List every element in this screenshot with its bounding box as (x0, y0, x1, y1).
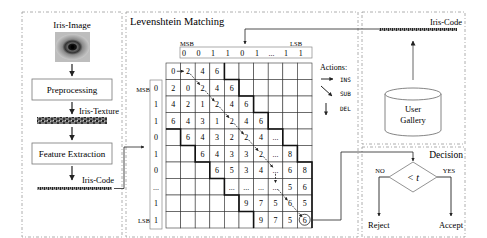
matrix-value: 2 (244, 133, 248, 142)
matrix-value: 4 (215, 84, 219, 93)
side-code-bit: 1 (154, 216, 158, 225)
matrix-value: ... (273, 133, 279, 142)
matrix-cell (181, 195, 196, 212)
ins-label: INS (340, 76, 351, 83)
side-code-bit: 0 (154, 166, 158, 175)
matrix-cell (181, 162, 196, 179)
matrix-cell (210, 195, 225, 212)
decision-panel: Decision < t NO YES Reject Accept (368, 150, 464, 230)
matrix-value: 6 (244, 100, 248, 109)
matrix-cell (195, 162, 210, 179)
matrix-value: 7 (259, 199, 263, 208)
matrix-value: 6 (288, 166, 292, 175)
matrix-cell (195, 212, 210, 229)
side-msb-label: MSB (136, 86, 150, 93)
matrix-value: ... (229, 183, 235, 192)
matrix-value: 6 (215, 166, 219, 175)
matrix-cell (254, 96, 269, 113)
iris-code-label: Iris-Code (82, 175, 114, 185)
accept-label: Accept (439, 220, 464, 230)
top-code-bit: 1 (284, 49, 288, 58)
matrix-value: 4 (259, 133, 263, 142)
top-code-bit: 1 (299, 49, 303, 58)
matrix-value: 5 (288, 216, 292, 225)
matrix-cell (210, 179, 225, 196)
matrix-cell (195, 195, 210, 212)
matrix-value: 6 (288, 199, 292, 208)
top-code-bit: 1 (211, 49, 215, 58)
iris-image-label: Iris-Image (53, 20, 90, 30)
matrix-value: 6 (215, 67, 219, 76)
matrix-value: 6 (303, 216, 307, 225)
matrix-cell (283, 63, 298, 80)
matrix-value: 6 (230, 84, 234, 93)
matrix-value: 3 (230, 150, 234, 159)
matrix-value: ... (273, 183, 279, 192)
iris-texture-label: Iris-Texture (79, 106, 119, 116)
probe-code-connector (114, 147, 144, 189)
gallery-iris-code-label: Iris-Code (430, 17, 462, 27)
matrix-value: 4 (186, 117, 190, 126)
iris-texture-strip (37, 117, 107, 124)
matrix-value: 6 (303, 183, 307, 192)
matrix-value: ... (258, 183, 264, 192)
top-code-bit: 0 (182, 49, 186, 58)
iris-code-strip (37, 187, 112, 190)
side-lsb-label: LSB (138, 217, 151, 224)
matrix-cell (268, 80, 283, 97)
matrix-cell (166, 179, 181, 196)
yes-arrow (437, 177, 451, 216)
matrix-cell (297, 96, 312, 113)
gallery-panel: Iris-Code User Gallery (379, 17, 462, 136)
matrix-value: 2 (171, 84, 175, 93)
reject-label: Reject (368, 220, 390, 230)
matrix-value: 3 (215, 133, 219, 142)
matrix-value: 4 (259, 166, 263, 175)
side-code-bit: ... (153, 183, 159, 192)
matrix-value: 0 (171, 67, 175, 76)
side-code-bit: 1 (154, 150, 158, 159)
matrix-cell (181, 146, 196, 163)
matrix-value: 2 (230, 117, 234, 126)
matrix-cell (224, 63, 239, 80)
matrix-cell (283, 129, 298, 146)
matrix-cell (254, 63, 269, 80)
side-code-bit: 1 (154, 117, 158, 126)
matrix-cell (166, 146, 181, 163)
gallery-iris-code-strip (379, 28, 457, 31)
threshold-condition: < t (407, 172, 419, 183)
matrix-cell (283, 96, 298, 113)
top-code-bit: 1 (255, 49, 259, 58)
matrix-cell (224, 195, 239, 212)
matrix-cell (181, 212, 196, 229)
sub-arrow-icon (321, 86, 332, 96)
side-code-bit: 1 (154, 100, 158, 109)
no-label: NO (375, 167, 385, 174)
gallery-code-connector (245, 29, 379, 44)
matrix-value: ... (273, 150, 279, 159)
matrix-cell (254, 80, 269, 97)
no-arrow (379, 177, 389, 216)
matrix-value: 4 (171, 100, 175, 109)
matrix-value: 9 (259, 216, 263, 225)
matrix-cell (166, 129, 181, 146)
matrix-value: 6 (171, 117, 175, 126)
side-code-bit: 0 (154, 84, 158, 93)
matrix-value: 2 (186, 67, 190, 76)
matrix-cell (166, 212, 181, 229)
matrix-cell (166, 162, 181, 179)
actions-title: Actions: (320, 63, 347, 72)
matrix-cell (268, 113, 283, 130)
top-code-bit: 0 (197, 49, 201, 58)
matrix-cell (239, 212, 254, 229)
matrix-cell (239, 63, 254, 80)
matrix-value: 2 (215, 100, 219, 109)
matrix-value: 4 (230, 100, 234, 109)
matrix-cell (166, 195, 181, 212)
side-code-bit: 1 (154, 199, 158, 208)
db-label-user: User (405, 104, 421, 114)
matrix-value: 4 (201, 133, 205, 142)
matrix-value: 5 (274, 199, 278, 208)
yes-label: YES (443, 167, 456, 174)
matrix-value: 0 (186, 84, 190, 93)
